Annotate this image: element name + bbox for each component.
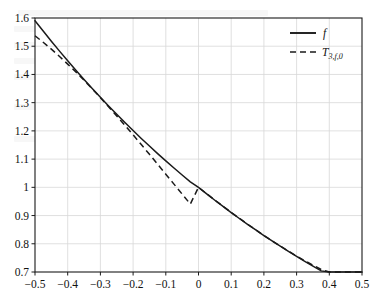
x-axis-tick-labels: −0.5−0.4−0.3−0.2−0.100.10.20.30.40.5 [25, 278, 370, 290]
y-axis-tick-labels: 0.70.80.911.11.21.31.41.51.6 [15, 12, 30, 278]
x-tick-label: 0.2 [257, 278, 272, 290]
x-tick-label: 0.1 [224, 278, 239, 290]
x-tick-label: 0.3 [289, 278, 304, 290]
x-tick-label: 0.5 [355, 278, 370, 290]
x-tick-label: 0 [196, 278, 202, 290]
x-tick-label: −0.4 [57, 278, 78, 290]
y-tick-label: 1.5 [15, 40, 30, 52]
y-tick-label: 1.4 [15, 68, 30, 80]
x-tick-label: −0.5 [25, 278, 46, 290]
chart-figure: −0.5−0.4−0.3−0.2−0.100.10.20.30.40.5 0.7… [0, 0, 375, 298]
y-tick-label: 1.6 [15, 12, 30, 24]
x-tick-label: −0.1 [155, 278, 176, 290]
y-tick-label: 1.2 [15, 125, 30, 137]
y-tick-label: 0.9 [15, 210, 30, 222]
y-tick-label: 0.8 [15, 238, 30, 250]
y-tick-label: 1 [23, 181, 29, 193]
x-tick-label: −0.2 [123, 278, 144, 290]
y-tick-label: 0.7 [15, 266, 30, 278]
function-taylor-line-chart: −0.5−0.4−0.3−0.2−0.100.10.20.30.40.5 0.7… [0, 0, 375, 298]
y-tick-label: 1.1 [15, 153, 30, 165]
x-tick-label: 0.4 [322, 278, 337, 290]
x-tick-label: −0.3 [90, 278, 111, 290]
y-tick-label: 1.3 [15, 97, 30, 109]
